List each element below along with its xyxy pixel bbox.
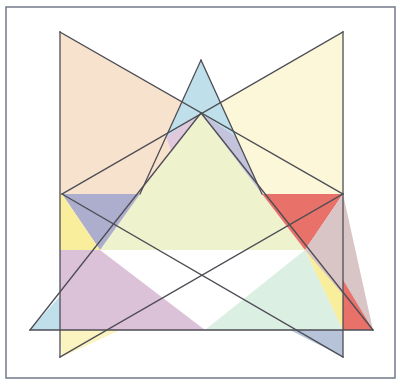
figure-root xyxy=(0,0,404,387)
triangles-diagram xyxy=(0,0,404,387)
